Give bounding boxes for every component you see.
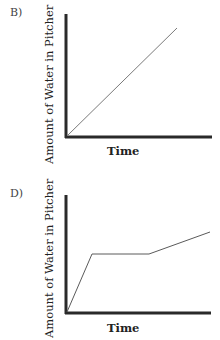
- x-axis-label-d: Time: [107, 321, 139, 335]
- x-axis-label-b: Time: [107, 144, 139, 158]
- data-line-b: [67, 28, 177, 136]
- chart-panel-b: B) Amount of Water in Pitcher Time: [0, 0, 220, 170]
- chart-plot-d: [0, 170, 220, 340]
- data-line-d: [67, 232, 210, 312]
- chart-panel-d: D) Amount of Water in Pitcher Time: [0, 170, 220, 340]
